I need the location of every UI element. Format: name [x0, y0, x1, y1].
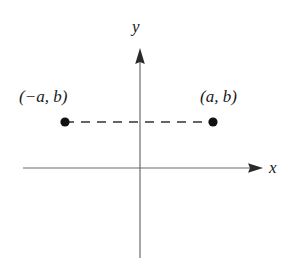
coordinate-plane-figure: y x (−a, b) (a, b)	[0, 0, 297, 270]
figure-canvas	[0, 0, 297, 270]
x-axis-label: x	[269, 159, 277, 176]
point-label-left: (−a, b)	[19, 88, 67, 105]
data-point-left	[60, 117, 69, 126]
point-label-right: (a, b)	[200, 88, 237, 105]
data-point-right	[208, 117, 217, 126]
x-axis-arrowhead	[248, 163, 263, 173]
y-axis-arrowhead	[135, 48, 145, 64]
y-axis-label: y	[132, 18, 140, 35]
